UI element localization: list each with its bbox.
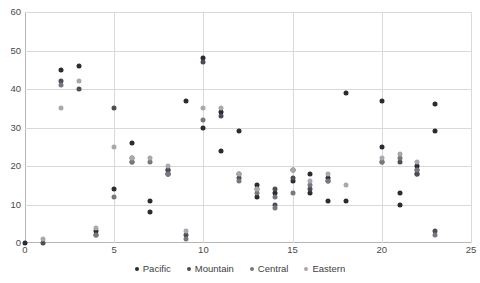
data-point-pacific xyxy=(147,198,152,203)
data-point-central xyxy=(165,171,170,176)
y-tick-label: 50 xyxy=(1,46,21,56)
gridline-vertical xyxy=(382,12,383,243)
data-point-eastern xyxy=(183,229,188,234)
data-point-pacific xyxy=(397,202,402,207)
y-tick-label: 10 xyxy=(1,200,21,210)
data-point-central xyxy=(112,194,117,199)
data-point-eastern xyxy=(237,171,242,176)
data-point-eastern xyxy=(112,144,117,149)
plot-area xyxy=(25,12,471,243)
data-point-eastern xyxy=(58,106,63,111)
data-point-eastern xyxy=(76,79,81,84)
data-point-eastern xyxy=(397,152,402,157)
legend-item-eastern[interactable]: Eastern xyxy=(304,264,345,274)
gridline-horizontal xyxy=(25,12,471,13)
data-point-pacific xyxy=(58,67,63,72)
gridline-vertical xyxy=(471,12,472,243)
data-point-eastern xyxy=(40,237,45,242)
y-tick-label: 30 xyxy=(1,123,21,133)
x-tick-label: 0 xyxy=(13,245,37,255)
data-point-eastern xyxy=(308,179,313,184)
data-point-eastern xyxy=(326,171,331,176)
data-point-eastern xyxy=(379,156,384,161)
data-point-eastern xyxy=(201,106,206,111)
gridline-horizontal xyxy=(25,89,471,90)
x-tick-label: 5 xyxy=(102,245,126,255)
x-tick-label: 20 xyxy=(370,245,394,255)
data-point-eastern xyxy=(147,156,152,161)
data-point-pacific xyxy=(379,144,384,149)
legend-marker-icon xyxy=(187,267,191,271)
data-point-eastern xyxy=(130,156,135,161)
data-point-central xyxy=(201,117,206,122)
data-point-pacific xyxy=(219,148,224,153)
data-point-pacific xyxy=(379,98,384,103)
data-point-eastern xyxy=(254,187,259,192)
gridline-vertical xyxy=(293,12,294,243)
x-tick-label: 15 xyxy=(281,245,305,255)
legend-label: Central xyxy=(258,264,289,274)
data-point-central xyxy=(415,167,420,172)
legend-item-mountain[interactable]: Mountain xyxy=(187,264,234,274)
data-point-central xyxy=(183,237,188,242)
data-point-central xyxy=(326,179,331,184)
legend-label: Eastern xyxy=(312,264,345,274)
data-point-eastern xyxy=(94,225,99,230)
x-axis-tick-labels: 0510152025 xyxy=(25,245,471,259)
data-point-pacific xyxy=(397,190,402,195)
gridline-horizontal xyxy=(25,128,471,129)
y-tick-label: 40 xyxy=(1,84,21,94)
data-point-mountain xyxy=(272,187,277,192)
data-point-central xyxy=(433,233,438,238)
data-point-mountain xyxy=(290,175,295,180)
y-axis-tick-labels: 6050403020100 xyxy=(0,12,21,243)
gridline-vertical xyxy=(114,12,115,243)
data-point-pacific xyxy=(183,98,188,103)
data-point-mountain xyxy=(219,113,224,118)
legend-label: Mountain xyxy=(195,264,234,274)
data-point-pacific xyxy=(308,171,313,176)
data-point-eastern xyxy=(219,106,224,111)
data-point-mountain xyxy=(76,87,81,92)
x-tick-label: 25 xyxy=(459,245,480,255)
data-point-pacific xyxy=(433,102,438,107)
data-point-mountain xyxy=(112,106,117,111)
legend-label: Pacific xyxy=(143,264,171,274)
data-point-pacific xyxy=(433,129,438,134)
data-point-pacific xyxy=(344,198,349,203)
data-point-pacific xyxy=(147,210,152,215)
legend-marker-icon xyxy=(304,267,308,271)
data-point-pacific xyxy=(201,125,206,130)
y-tick-label: 20 xyxy=(1,161,21,171)
legend-marker-icon xyxy=(250,267,254,271)
data-point-pacific xyxy=(112,187,117,192)
x-tick-label: 10 xyxy=(191,245,215,255)
data-point-eastern xyxy=(165,164,170,169)
gridline-horizontal xyxy=(25,166,471,167)
legend-item-pacific[interactable]: Pacific xyxy=(135,264,171,274)
data-point-mountain xyxy=(201,60,206,65)
legend-item-central[interactable]: Central xyxy=(250,264,289,274)
y-tick-label: 60 xyxy=(1,7,21,17)
gridline-horizontal xyxy=(25,205,471,206)
data-point-pacific xyxy=(130,140,135,145)
data-point-eastern xyxy=(344,183,349,188)
data-point-eastern xyxy=(290,167,295,172)
data-point-central xyxy=(272,206,277,211)
x-axis-line xyxy=(25,242,471,243)
legend-marker-icon xyxy=(135,267,139,271)
data-point-pacific xyxy=(237,129,242,134)
data-point-eastern xyxy=(415,160,420,165)
scatter-chart: 6050403020100 0510152025 PacificMountain… xyxy=(0,0,480,283)
data-point-pacific xyxy=(76,63,81,68)
chart-legend: PacificMountainCentralEastern xyxy=(0,264,480,274)
data-point-central xyxy=(237,179,242,184)
data-point-central xyxy=(272,194,277,199)
data-point-central xyxy=(290,190,295,195)
gridline-horizontal xyxy=(25,51,471,52)
data-point-pacific xyxy=(326,198,331,203)
data-point-central xyxy=(94,233,99,238)
data-point-pacific xyxy=(344,90,349,95)
data-point-central xyxy=(58,83,63,88)
